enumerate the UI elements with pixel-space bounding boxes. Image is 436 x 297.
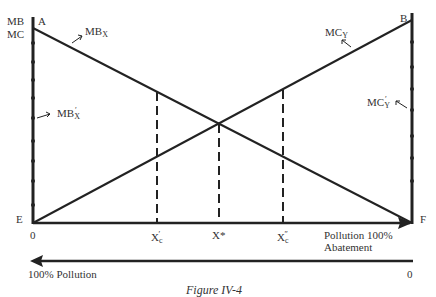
x-tick-end-line1: Pollution 100% xyxy=(324,229,393,241)
point-b-label: B xyxy=(400,12,407,24)
x-tick-origin: 0 xyxy=(30,229,36,241)
figure-caption: Figure IV-4 xyxy=(186,284,242,296)
x-tick-xstar: X* xyxy=(212,229,225,241)
lower-axis-left-label: 100% Pollution xyxy=(28,268,97,280)
x-tick-xc-prime: Xc′ xyxy=(151,229,160,247)
mcy-label: MCY xyxy=(325,26,348,42)
label-arrows xyxy=(37,35,407,118)
point-e-label: E xyxy=(16,213,23,225)
x-tick-xc-dprime: Xc″ xyxy=(277,229,288,247)
x-tick-end-line2: Abatement xyxy=(324,241,372,253)
mbx-label: MBX xyxy=(85,25,108,41)
mbx-line xyxy=(33,28,412,223)
point-a-label: A xyxy=(38,15,46,27)
axis-label-mc: MC xyxy=(7,28,24,40)
mcy-prime-label: MCY′ xyxy=(367,94,387,112)
mbx-prime-label: MBX′ xyxy=(57,105,77,123)
lower-axis-right-label: 0 xyxy=(407,268,413,280)
mcy-line xyxy=(33,20,412,223)
point-f-label: F xyxy=(420,213,426,225)
axis-label-mb: MB xyxy=(7,15,24,27)
